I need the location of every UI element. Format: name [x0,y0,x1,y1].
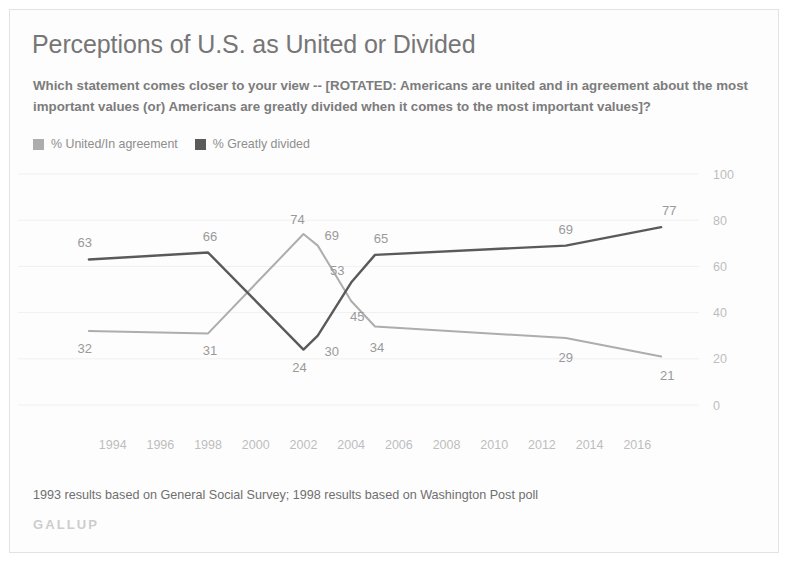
y-axis-tick-label: 40 [713,306,727,320]
legend-swatch-united [33,139,44,150]
x-axis-tick-label: 2010 [480,438,508,452]
x-axis-tick-label: 2004 [337,438,365,452]
data-point-label: 53 [330,263,344,278]
y-axis-tick-label: 80 [713,214,727,228]
y-axis-tick-label: 100 [713,168,734,182]
chart-footnote: 1993 results based on General Social Sur… [33,488,538,502]
chart-card: Perceptions of U.S. as United or Divided… [9,9,779,553]
line-chart-plot: 0204060801001994199619982000200220042006… [10,160,779,480]
x-axis-tick-label: 2016 [623,438,651,452]
data-point-label: 63 [78,235,92,250]
x-axis-tick-label: 2002 [290,438,318,452]
x-axis-tick-label: 2014 [576,438,604,452]
y-axis-tick-label: 60 [713,260,727,274]
legend-label-divided: % Greatly divided [213,137,310,151]
legend-item-divided[interactable]: % Greatly divided [195,137,310,151]
data-point-label: 69 [559,222,573,237]
chart-title: Perceptions of U.S. as United or Divided [32,30,475,59]
x-axis-tick-label: 2008 [433,438,461,452]
x-axis-tick-label: 1996 [146,438,174,452]
data-point-label: 32 [78,341,92,356]
x-axis-tick-label: 2000 [242,438,270,452]
chart-legend: % United/In agreement % Greatly divided [33,137,310,151]
x-axis-tick-label: 1994 [99,438,127,452]
data-point-label: 77 [662,203,676,218]
data-point-label: 65 [374,231,388,246]
x-axis-tick-label: 2006 [385,438,413,452]
data-point-label: 45 [350,309,364,324]
legend-label-united: % United/In agreement [51,137,178,151]
data-point-label: 21 [660,368,674,383]
data-point-label: 31 [203,343,217,358]
data-point-label: 29 [559,350,573,365]
data-point-label: 34 [370,340,384,355]
data-point-label: 69 [325,228,339,243]
series-line-united [89,234,661,356]
data-point-label: 30 [325,344,339,359]
legend-item-united[interactable]: % United/In agreement [33,137,178,151]
data-point-label: 66 [203,229,217,244]
legend-swatch-divided [195,139,206,150]
data-point-label: 74 [290,212,304,227]
data-point-label: 24 [292,360,306,375]
y-axis-tick-label: 20 [713,352,727,366]
gallup-logo: GALLUP [33,517,99,532]
chart-subtitle: Which statement comes closer to your vie… [33,75,768,117]
x-axis-tick-label: 2012 [528,438,556,452]
x-axis-tick-label: 1998 [194,438,222,452]
y-axis-tick-label: 0 [713,399,720,413]
